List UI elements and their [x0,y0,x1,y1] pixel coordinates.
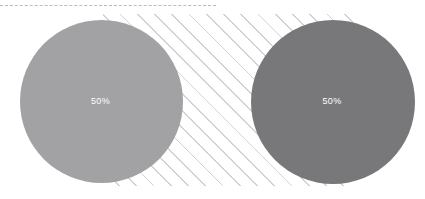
right-pie-circle[interactable]: 50% [251,20,415,184]
left-pie-circle[interactable]: 50% [20,20,183,183]
chart-canvas: 50% 50% [0,0,425,199]
dashed-rule [0,5,216,6]
right-pie-value-label: 50% [322,96,341,106]
left-pie-value-label: 50% [91,96,110,106]
